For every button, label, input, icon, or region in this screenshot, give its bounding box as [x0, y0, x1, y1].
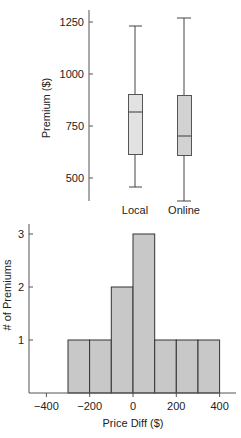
- bin-m100-0: [111, 287, 133, 393]
- histogram-ytick-2: 2: [18, 281, 24, 293]
- bin-m200-m100: [90, 340, 112, 393]
- figure: 1250 1000 750 500 Premium ($) Local Onli…: [0, 0, 241, 438]
- boxplot-ytick-750: 750: [66, 120, 84, 132]
- boxplot-ytick-500: 500: [66, 172, 84, 184]
- boxplot-chart: 1250 1000 750 500 Premium ($) Local Onli…: [40, 10, 200, 216]
- bin-300-400: [198, 340, 220, 393]
- bin-100-200: [155, 340, 177, 393]
- boxplot-y-axis-title: Premium ($): [40, 78, 52, 139]
- histogram-xtick-200: 200: [167, 400, 185, 412]
- histogram-x-axis-title: Price Diff ($): [103, 417, 164, 429]
- bin-0-100: [133, 234, 155, 393]
- histogram-chart: 3 2 1 −400 −200 0 200 400 Price Diff ($)…: [1, 224, 236, 429]
- histogram-xtick-m400: −400: [34, 400, 59, 412]
- histogram-xtick-400: 400: [210, 400, 228, 412]
- boxplot-ytick-1250: 1250: [60, 16, 84, 28]
- bin-200-300: [176, 340, 198, 393]
- histogram-x-ticks: [46, 393, 219, 397]
- boxplot-ytick-1000: 1000: [60, 68, 84, 80]
- histogram-y-axis-title: # of Premiums: [1, 259, 13, 330]
- boxplot-category-online: Online: [168, 204, 200, 216]
- histogram-xtick-m200: −200: [77, 400, 102, 412]
- histogram-ytick-3: 3: [18, 228, 24, 240]
- boxplot-y-ticks: [89, 22, 93, 178]
- histogram-bars: [68, 234, 220, 393]
- boxplot-category-local: Local: [122, 204, 148, 216]
- histogram-ytick-1: 1: [18, 334, 24, 346]
- box-local: [129, 26, 143, 187]
- box-online: [177, 18, 192, 201]
- histogram-xtick-0: 0: [130, 400, 136, 412]
- histogram-y-ticks: [29, 234, 33, 340]
- bin-m300-m200: [68, 340, 90, 393]
